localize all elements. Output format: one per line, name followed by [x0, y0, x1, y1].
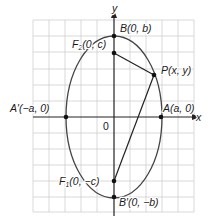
x-axis-label: x [195, 111, 202, 123]
point-f2 [112, 51, 117, 56]
ellipse-diagram: y x 0 B(0, b) B′(0, −b) A(a, 0) A′(−a, 0… [0, 0, 213, 222]
point-a [159, 115, 164, 120]
label-f2: F2(0, c) [72, 38, 106, 51]
label-b-prime: B′(0, −b) [119, 196, 159, 208]
point-a-prime [64, 115, 69, 120]
point-b-prime [112, 195, 117, 200]
axes [33, 14, 196, 216]
label-b: B(0, b) [120, 22, 152, 34]
point-p [152, 73, 157, 78]
label-p: P(x, y) [161, 64, 191, 76]
point-b [112, 34, 117, 39]
label-f1: F1(0, −c) [59, 175, 99, 188]
origin-label: 0 [103, 120, 109, 132]
label-a: A(a, 0) [162, 102, 195, 114]
label-a-prime: A′(−a, 0) [9, 102, 50, 114]
segment-f2-p [114, 53, 154, 75]
point-f1 [112, 179, 117, 184]
y-axis-label: y [111, 2, 118, 14]
